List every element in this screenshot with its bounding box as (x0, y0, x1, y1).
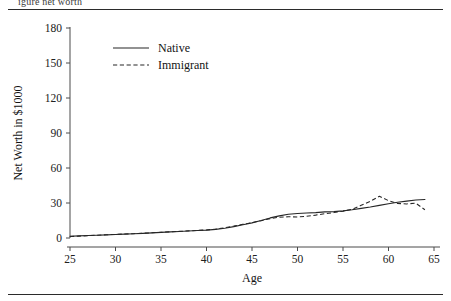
x-axis-title: Age (242, 271, 262, 285)
x-tick-label: 30 (110, 253, 122, 265)
y-tick-label: 180 (45, 22, 63, 34)
y-axis-ticks (66, 28, 70, 238)
x-tick-label: 40 (201, 253, 213, 265)
y-axis: 0306090120150180 (45, 22, 70, 244)
y-tick-label: 150 (45, 57, 63, 69)
x-tick-label: 65 (428, 253, 440, 265)
x-axis-ticks (70, 247, 434, 251)
x-tick-label: 60 (383, 253, 395, 265)
data-series-group (70, 196, 425, 236)
y-tick-label: 60 (51, 162, 63, 174)
chart-legend: Native Immigrant (113, 41, 209, 72)
y-tick-label: 30 (51, 197, 63, 209)
y-tick-label: 90 (51, 127, 63, 139)
legend-label-native: Native (158, 41, 190, 55)
series-line-immigrant (70, 196, 425, 236)
x-tick-label: 55 (337, 253, 349, 265)
y-axis-tick-labels: 0306090120150180 (45, 22, 63, 244)
line-chart: 0306090120150180 253035404550556065 Nati… (0, 0, 451, 301)
figure-container: igure net worth 0306090120150180 2530354… (0, 0, 451, 301)
legend-label-immigrant: Immigrant (158, 58, 209, 72)
y-axis-title: Net Worth in $1000 (11, 85, 25, 180)
series-line-native (70, 200, 425, 237)
x-tick-label: 50 (292, 253, 304, 265)
figure-bottom-rule (8, 294, 443, 295)
x-tick-label: 25 (64, 253, 76, 265)
y-tick-label: 120 (45, 92, 63, 104)
y-tick-label: 0 (56, 232, 62, 244)
x-tick-label: 35 (155, 253, 167, 265)
x-axis-tick-labels: 253035404550556065 (64, 253, 440, 265)
x-tick-label: 45 (246, 253, 258, 265)
x-axis: 253035404550556065 (64, 247, 440, 265)
chart-svg: 0306090120150180 253035404550556065 Nati… (0, 0, 451, 301)
